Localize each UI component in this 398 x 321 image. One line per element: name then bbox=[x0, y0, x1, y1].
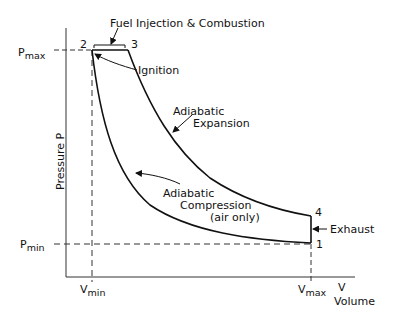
pmin-label: Pmin bbox=[20, 238, 45, 253]
compression-annotation-3: (air only) bbox=[210, 211, 260, 224]
x-axis-label: Volume bbox=[334, 295, 375, 308]
y-axis-label: Pressure P bbox=[54, 133, 67, 190]
point-1-label: 1 bbox=[316, 238, 323, 251]
point-4-label: 4 bbox=[315, 206, 322, 219]
fuel-annotation: Fuel Injection & Combustion bbox=[110, 17, 265, 30]
compression-arrow bbox=[136, 173, 180, 184]
fuel-arrow bbox=[111, 28, 118, 44]
vmax-label: Vmax bbox=[298, 283, 327, 298]
pv-diagram: Pmax Pmin Vmin Vmax V Volume Pressure P … bbox=[0, 0, 398, 321]
pmax-label: Pmax bbox=[18, 46, 46, 61]
ignition-annotation: Ignition bbox=[138, 64, 179, 77]
compression-curve bbox=[92, 50, 311, 243]
exhaust-annotation: Exhaust bbox=[330, 223, 375, 236]
fuel-bracket bbox=[94, 45, 125, 48]
vmin-label: Vmin bbox=[80, 283, 105, 298]
point-3-label: 3 bbox=[131, 38, 138, 51]
x-axis-symbol: V bbox=[338, 281, 346, 294]
point-2-label: 2 bbox=[80, 38, 87, 51]
expansion-annotation-2: Expansion bbox=[193, 117, 250, 130]
